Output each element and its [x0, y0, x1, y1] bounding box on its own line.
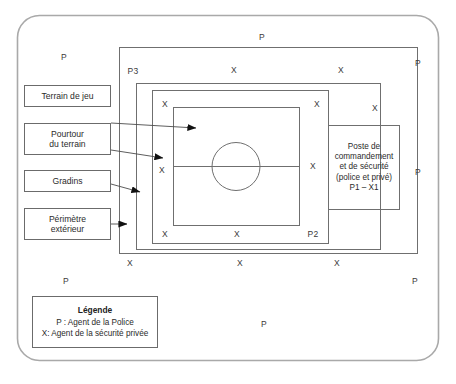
command-post-line1: Poste de [348, 142, 380, 152]
agent-marker-police-0: P [259, 32, 265, 42]
agent-marker-private-7: X [231, 65, 237, 75]
agent-marker-private-8: X [338, 65, 344, 75]
legend-title: Légende [78, 305, 112, 315]
agent-marker-private-15: X [234, 229, 240, 239]
zone-code-p3: P3 [128, 66, 139, 76]
command-post-line4: (police et privé) [336, 173, 392, 183]
agent-marker-police-3: P [415, 167, 421, 177]
legend-line-private: X: Agent de la sécurité privée [42, 329, 149, 340]
label-text-terrain-de-jeu: Terrain de jeu [41, 91, 93, 102]
command-post-label: Poste de commandement et de sécurité (po… [329, 126, 399, 209]
command-post-line3: et de sécurité [339, 162, 388, 172]
legend-line-police: P : Agent de la Police [56, 318, 134, 329]
label-text-gradins: Gradins [52, 176, 82, 187]
label-text-pourtour-line2: du terrain [49, 139, 85, 150]
label-text-perimetre-line1: Périmètre [49, 214, 86, 225]
zone-code-p2: P2 [308, 229, 319, 239]
agent-marker-private-9: X [162, 99, 168, 109]
legend-box: Légende P : Agent de la Police X: Agent … [32, 296, 158, 348]
label-text-pourtour-line1: Pourtour [51, 129, 84, 140]
label-box-gradins[interactable]: Gradins [24, 170, 111, 192]
agent-marker-police-1: P [61, 52, 67, 62]
agent-marker-private-14: X [162, 229, 168, 239]
agent-marker-private-11: X [372, 103, 378, 113]
agent-marker-private-17: X [237, 258, 243, 268]
leader-line-gradins [111, 184, 140, 192]
agent-marker-private-12: X [159, 165, 165, 175]
agent-marker-police-5: P [63, 276, 69, 286]
diagram-canvas: Terrain de jeu Pourtour du terrain Gradi… [0, 0, 456, 384]
label-text-perimetre-line2: extérieur [51, 224, 84, 235]
agent-marker-police-6: P [261, 319, 267, 329]
command-post-line5: P1 – X1 [349, 183, 378, 193]
agent-marker-police-4: P [412, 276, 418, 286]
agent-marker-private-13: X [310, 161, 316, 171]
leader-line-terrain-de-jeu [111, 123, 196, 128]
agent-marker-private-16: X [127, 258, 133, 268]
label-box-terrain-de-jeu[interactable]: Terrain de jeu [24, 85, 111, 107]
agent-marker-police-2: P [415, 58, 421, 68]
label-box-perimetre-exterieur[interactable]: Périmètre extérieur [24, 208, 111, 240]
agent-marker-private-18: X [334, 258, 340, 268]
command-post-line2: commandement [335, 152, 394, 162]
agent-marker-private-10: X [314, 99, 320, 109]
label-box-pourtour-du-terrain[interactable]: Pourtour du terrain [24, 123, 111, 155]
